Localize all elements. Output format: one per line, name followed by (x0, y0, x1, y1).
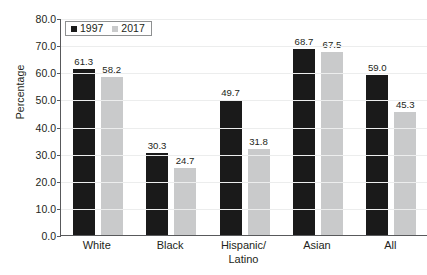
bar-1997-black (146, 153, 168, 235)
gridline (61, 19, 427, 20)
bar-value-label: 61.3 (74, 57, 93, 67)
bar-2017-hispaniclatino (248, 149, 270, 235)
y-axis-tick-label: 0.0 (18, 231, 56, 241)
bar-1997-hispaniclatino (220, 100, 242, 235)
gridline (61, 73, 427, 74)
y-axis-tick-label: 20.0 (18, 177, 56, 187)
y-axis-tick-label: 80.0 (18, 14, 56, 24)
legend-item: 1997 (71, 23, 103, 34)
y-axis-tickmark (57, 46, 61, 47)
bar-chart: Percentage 0.010.020.030.040.050.060.070… (0, 0, 427, 275)
gridline (61, 100, 427, 101)
x-axis-tick-label: Asian (303, 239, 331, 253)
gridline (61, 182, 427, 183)
legend-square-black (71, 26, 77, 32)
bar-2017-black (174, 168, 196, 235)
y-axis-tick-label: 40.0 (18, 123, 56, 133)
gridline (61, 209, 427, 210)
bar-value-label: 30.3 (148, 141, 167, 151)
legend-label: 1997 (80, 23, 103, 34)
bar-1997-white (73, 69, 95, 235)
y-axis-tickmark (57, 100, 61, 101)
x-axis-tick-label: White (83, 239, 111, 253)
y-axis-tickmark (57, 182, 61, 183)
bar-value-label: 67.5 (323, 40, 342, 50)
gridline (61, 155, 427, 156)
y-axis-tick-labels: 0.010.020.030.040.050.060.070.080.0 (18, 14, 56, 236)
legend-item: 2017 (112, 23, 144, 34)
y-axis-tickmark (57, 19, 61, 20)
x-axis-tick-labels: WhiteBlackHispanic/ LatinoAsianAll (60, 239, 427, 275)
y-axis-tickmark (57, 73, 61, 74)
gridline (61, 46, 427, 47)
y-axis-tick-label: 10.0 (18, 204, 56, 214)
bar-value-label: 59.0 (368, 63, 387, 73)
y-axis-tickmark (57, 155, 61, 156)
legend-label: 2017 (121, 23, 144, 34)
legend-square-gray (112, 26, 118, 32)
y-axis-tickmark (57, 209, 61, 210)
bar-2017-all (394, 112, 416, 235)
y-axis-tick-label: 30.0 (18, 150, 56, 160)
x-axis-tick-label: All (384, 239, 396, 253)
gridline (61, 128, 427, 129)
bar-value-label: 24.7 (176, 156, 195, 166)
bar-value-label: 45.3 (396, 100, 415, 110)
x-axis-tick-label: Hispanic/ Latino (221, 239, 266, 266)
legend: 19972017 (65, 21, 152, 36)
y-axis-tick-label: 60.0 (18, 68, 56, 78)
plot-area: 61.358.230.324.749.731.868.767.559.045.3 (60, 19, 427, 236)
bar-1997-asian (293, 49, 315, 235)
y-axis-tickmark (57, 236, 61, 237)
bar-value-label: 31.8 (249, 137, 268, 147)
y-axis-tick-label: 50.0 (18, 95, 56, 105)
bar-2017-asian (321, 52, 343, 235)
y-axis-tickmark (57, 128, 61, 129)
y-axis-tick-label: 70.0 (18, 41, 56, 51)
bar-value-label: 49.7 (221, 88, 240, 98)
x-axis-tick-label: Black (157, 239, 184, 253)
